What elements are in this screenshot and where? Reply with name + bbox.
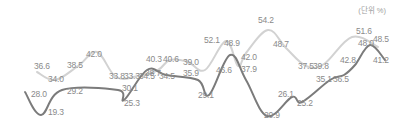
series-dark-data-label: 36.5 <box>333 75 349 84</box>
series-dark-data-label: 34.5 <box>159 72 175 81</box>
series-dark-data-label: 48.9 <box>224 39 240 48</box>
unit-label: (단위 %) <box>358 4 386 15</box>
series-light-data-label: 48.7 <box>273 40 289 49</box>
series-light-data-label: 34.0 <box>48 75 64 84</box>
series-dark-data-label: 42.8 <box>340 56 356 65</box>
series-light-data-label: 40.6 <box>163 55 179 64</box>
series-light-data-label: 48.5 <box>373 35 389 44</box>
series-dark-data-label: 20.9 <box>264 111 280 120</box>
series-dark-data-label: 29.1 <box>198 91 214 100</box>
series-light-data-label: 46.6 <box>216 66 232 75</box>
series-light-data-label: 38.5 <box>67 61 83 70</box>
series-light-data-label: 37.5 <box>298 62 314 71</box>
series-dark-data-label: 35.1 <box>316 75 332 84</box>
series-light-data-label: 40.3 <box>146 55 162 64</box>
series-light-data-label: 51.6 <box>356 27 372 36</box>
series-light-data-label: 39.8 <box>313 62 329 71</box>
series-dark-data-label: 19.3 <box>48 108 64 117</box>
series-dark-data-label: 37.9 <box>241 65 257 74</box>
series-dark-data-label: 26.1 <box>278 90 294 99</box>
series-dark-data-label: 28.0 <box>31 90 47 99</box>
series-light-data-label: 33.8 <box>109 72 125 81</box>
series-light-data-label: 42.0 <box>241 53 257 62</box>
series-light-data-label: 54.2 <box>258 16 274 25</box>
series-light-data-label: 36.6 <box>34 62 50 71</box>
series-light-data-label: 42.0 <box>86 50 102 59</box>
series-dark-data-label: 29.2 <box>67 87 83 96</box>
series-dark-data-label: 30.1 <box>122 84 138 93</box>
series-light-data-label: 39.0 <box>183 58 199 67</box>
series-dark-data-label: 25.3 <box>124 99 140 108</box>
series-dark-data-label: 41.2 <box>373 56 389 65</box>
series-light-data-label: 52.1 <box>204 36 220 45</box>
series-dark-data-label: 25.2 <box>297 99 313 108</box>
series-light-data-label: 33.3 <box>124 72 140 81</box>
series-dark-data-label: 48.0 <box>358 39 374 48</box>
series-dark-data-label: 35.9 <box>183 69 199 78</box>
